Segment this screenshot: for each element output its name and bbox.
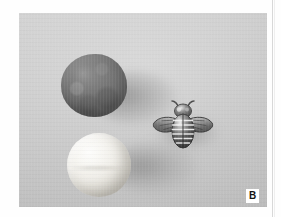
light-sphere bbox=[67, 133, 131, 197]
dark-sphere-texture bbox=[61, 54, 127, 117]
figure-page: B bbox=[0, 0, 281, 217]
bee-icon bbox=[152, 99, 214, 153]
panel-label: B bbox=[246, 189, 259, 203]
bee-ornament bbox=[152, 99, 214, 153]
figure-photograph: B bbox=[19, 13, 267, 207]
light-sphere-seam bbox=[70, 166, 129, 170]
page-column-rule bbox=[272, 0, 273, 217]
page-column-rule-secondary bbox=[274, 0, 275, 217]
panel-label-text: B bbox=[249, 191, 256, 201]
dark-sphere bbox=[61, 54, 127, 117]
